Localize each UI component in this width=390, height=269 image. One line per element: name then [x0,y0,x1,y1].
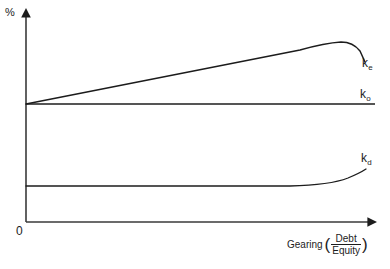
fraction-denominator: Equity [331,245,361,256]
origin-label: 0 [16,225,23,237]
fraction-numerator: Debt [335,234,358,245]
series-label-ko-subscript: o [366,94,370,103]
gearing-cost-of-capital-chart: % 0 ke ko kd Gearing ( Debt Equity ) [0,0,390,269]
debt-equity-fraction: Debt Equity [331,234,361,256]
x-axis-label-close-paren: ) [362,236,368,253]
x-axis-label: Gearing ( Debt Equity ) [287,234,368,256]
series-label-ke-subscript: e [368,63,372,72]
series-label-ke: ke [362,57,372,69]
y-axis-label: % [5,7,15,18]
chart-canvas [0,0,390,269]
x-axis-label-open-paren: ( [325,236,331,253]
series-ke-curve [26,42,365,104]
series-label-kd: kd [361,152,371,164]
series-label-ko: ko [360,88,370,100]
x-axis-label-word: Gearing [287,240,323,250]
series-label-kd-subscript: d [367,158,371,167]
series-kd-curve [26,169,366,186]
